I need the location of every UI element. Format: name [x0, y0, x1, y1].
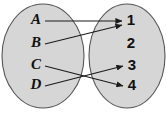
domain-element-B: B [30, 34, 41, 50]
domain-set-ellipse [2, 4, 84, 108]
domain-element-C: C [31, 56, 42, 72]
codomain-element-4: 4 [128, 76, 137, 93]
diagram-canvas: ABCD 1234 [0, 0, 166, 113]
codomain-element-3: 3 [128, 56, 136, 73]
domain-element-A: A [30, 11, 41, 27]
mapping-diagram: ABCD 1234 [0, 0, 166, 113]
codomain-element-2: 2 [127, 34, 135, 51]
domain-element-D: D [30, 76, 42, 92]
codomain-element-1: 1 [127, 11, 135, 28]
